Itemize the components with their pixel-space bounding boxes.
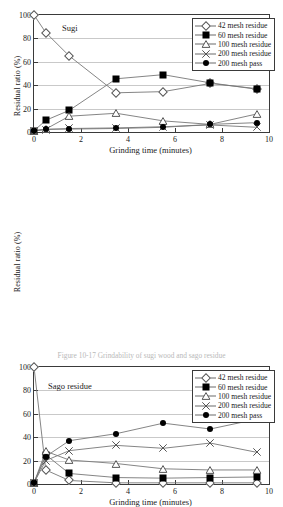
legend-item[interactable]: 60 mesh residue — [195, 382, 271, 391]
legend-item[interactable]: 200 mesh pass — [195, 59, 271, 68]
y-axis-tick-label: 60 — [23, 57, 34, 66]
legend-item[interactable]: 200 mesh pass — [195, 411, 271, 420]
x-axis-tick-label: 8 — [220, 484, 224, 496]
chart-legend: 42 mesh residue60 mesh residue100 mesh r… — [192, 370, 275, 423]
x-axis-tick-label: 6 — [173, 484, 177, 496]
chart-sugi: Residual ratio (%) 0204060801000246810Su… — [0, 0, 283, 172]
x-axis-tick-label: 10 — [265, 484, 273, 496]
data-point-marker — [113, 474, 120, 481]
data-point-marker — [43, 126, 49, 132]
y-axis-tick-label: 40 — [23, 81, 34, 90]
data-point-marker — [206, 466, 215, 474]
data-point-marker — [203, 60, 209, 66]
y-axis-tick-label: 80 — [23, 386, 34, 395]
legend-marker — [195, 392, 216, 401]
data-point-marker — [113, 125, 119, 131]
y-axis-tick-label: 80 — [23, 34, 34, 43]
x-axis-title-top: Grinding time (minutes) — [33, 145, 268, 155]
legend-item[interactable]: 100 mesh residue — [195, 392, 271, 401]
data-point-marker — [31, 128, 37, 134]
data-point-marker — [201, 49, 210, 58]
legend-label: 42 mesh residue — [216, 21, 267, 30]
legend-item[interactable]: 200 mesh residue — [195, 49, 271, 58]
data-point-marker — [202, 32, 209, 39]
legend-item[interactable]: 200 mesh residue — [195, 401, 271, 410]
data-point-marker — [254, 473, 261, 480]
legend-marker — [195, 40, 216, 49]
figure-caption: Figure 10-17 Grindability of sugi wood a… — [0, 351, 283, 360]
chart-sago-residue: Residual ratio (%) 0204060801000246810Sa… — [0, 172, 283, 352]
data-point-marker — [254, 120, 260, 126]
legend-label: 200 mesh residue — [216, 49, 271, 58]
data-point-marker — [253, 110, 262, 118]
data-point-marker — [66, 470, 73, 477]
data-point-marker — [42, 117, 49, 124]
legend-item[interactable]: 100 mesh residue — [195, 40, 271, 49]
data-point-marker — [253, 448, 262, 457]
data-point-marker — [202, 384, 209, 391]
data-point-marker — [65, 446, 74, 455]
plot-area-sugi: 0204060801000246810Sugi42 mesh residue60… — [33, 14, 270, 133]
legend-item[interactable]: 42 mesh residue — [195, 21, 271, 30]
data-point-marker — [66, 438, 72, 444]
data-point-marker — [201, 392, 210, 400]
legend-marker — [195, 411, 216, 420]
legend-label: 42 mesh residue — [216, 373, 267, 382]
data-point-marker — [113, 431, 119, 437]
legend-marker — [195, 383, 216, 392]
legend-label: 200 mesh pass — [216, 411, 262, 420]
legend-label: 60 mesh residue — [216, 31, 267, 40]
legend-label: 200 mesh pass — [216, 59, 262, 68]
legend-item[interactable]: 42 mesh residue — [195, 373, 271, 382]
y-axis-tick-label: 60 — [23, 409, 34, 418]
data-point-marker — [159, 465, 168, 473]
data-point-marker — [206, 439, 215, 448]
x-axis-tick-label: 4 — [126, 132, 130, 144]
data-point-marker — [65, 456, 74, 464]
legend-item[interactable]: 60 mesh residue — [195, 30, 271, 39]
x-axis-tick-label: 8 — [220, 132, 224, 144]
y-axis-tick-label: 20 — [23, 104, 34, 113]
chart-legend: 42 mesh residue60 mesh residue100 mesh r… — [192, 18, 275, 71]
x-axis-tick-label: 10 — [265, 132, 273, 144]
data-point-marker — [159, 444, 168, 453]
y-axis-tick-label: 40 — [23, 433, 34, 442]
data-point-marker — [65, 112, 74, 120]
x-axis-tick-label: 4 — [126, 484, 130, 496]
data-point-marker — [112, 460, 121, 468]
legend-label: 100 mesh residue — [216, 392, 271, 401]
legend-label: 200 mesh residue — [216, 401, 271, 410]
data-point-marker — [254, 86, 261, 93]
data-point-marker — [207, 121, 213, 127]
data-point-marker — [207, 79, 214, 86]
data-point-marker — [207, 474, 214, 481]
data-point-marker — [160, 124, 166, 130]
y-axis-title-bottom: Residual ratio (%) — [13, 207, 22, 317]
x-axis-tick-label: 6 — [173, 132, 177, 144]
data-point-marker — [31, 480, 37, 486]
data-point-marker — [160, 475, 167, 482]
y-axis-tick-label: 20 — [23, 456, 34, 465]
legend-label: 100 mesh residue — [216, 40, 271, 49]
data-point-marker — [201, 373, 211, 383]
data-point-marker — [43, 454, 49, 460]
legend-label: 60 mesh residue — [216, 383, 267, 392]
legend-marker — [195, 401, 216, 410]
data-point-marker — [160, 71, 167, 78]
legend-marker — [195, 49, 216, 58]
data-point-marker — [112, 109, 121, 117]
legend-marker — [195, 31, 216, 40]
data-point-marker — [253, 466, 262, 474]
data-point-marker — [112, 441, 121, 450]
data-point-marker — [201, 40, 210, 48]
y-axis-title-top: Residual ratio (%) — [13, 31, 22, 141]
data-point-marker — [203, 412, 209, 418]
data-point-marker — [160, 420, 166, 426]
legend-marker — [195, 59, 216, 68]
legend-marker — [195, 21, 216, 30]
legend-marker — [195, 373, 216, 382]
data-point-marker — [207, 426, 213, 432]
data-point-marker — [201, 401, 210, 410]
x-axis-tick-label: 2 — [79, 484, 83, 496]
